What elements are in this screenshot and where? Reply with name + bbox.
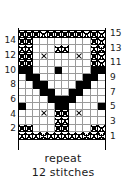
stitch-cell-blank [62,74,69,81]
stitch-cell-blank [55,74,62,81]
stitch-cell-tex [69,31,76,38]
stitch-cell-blank [48,60,55,67]
stitch-cell-blank [83,38,90,45]
stitch-cell-tex [98,125,105,132]
stitch-cell-blank [69,53,76,60]
stitch-cell-blank [40,45,47,52]
stitch-cell-tex [91,38,98,45]
stitch-cell-tex [26,125,33,132]
stitch-cell-fill [26,74,33,81]
stitch-cell-blank [76,103,83,110]
stitch-cell-blank [26,81,33,88]
stitch-cell-tex [98,132,105,139]
stitch-cell-blank [19,117,26,124]
stitch-cell-fill [48,89,55,96]
stitch-cell-fill [98,103,105,110]
stitch-cell-blank [69,81,76,88]
stitch-cell-blank [76,45,83,52]
stitch-cell-blank [98,96,105,103]
stitch-cell-blank [48,67,55,74]
stitch-cell-blank [83,103,90,110]
row-number-right: 7 [110,89,126,96]
row-number-left: 10 [0,67,16,74]
stitch-cell-tex [98,60,105,67]
row-number-left [0,133,16,140]
row-number-right: 3 [110,118,126,125]
stitch-cell-fill [33,81,40,88]
stitch-cell-fill [55,67,62,74]
stitch-cell-blank [33,103,40,110]
stitch-cell-blank [98,74,105,81]
stitch-cell-blank [76,74,83,81]
stitch-cell-tex [40,132,47,139]
stitch-cell-blank [91,81,98,88]
stitch-cell-fill [83,74,90,81]
stitch-cell-fill [19,103,26,110]
stitch-cell-blank [26,103,33,110]
stitch-cell-tex [98,31,105,38]
stitch-cell-blank [19,74,26,81]
stitch-cell-blank [83,53,90,60]
stitch-cell-blank [69,110,76,117]
stitch-cell-blank [48,110,55,117]
stitch-cell-fill [33,74,40,81]
stitch-cell-tex [26,53,33,60]
row-numbers-left: 1412108642 [0,30,18,140]
stitch-cell-tex [19,38,26,45]
stitch-cell-blank [91,110,98,117]
stitch-cell-tex [19,132,26,139]
stitch-cell-fill [69,96,76,103]
stitch-cell-fill [91,67,98,74]
stitch-cell-tex [91,45,98,52]
stitch-cell-blank [48,125,55,132]
stitch-cell-blank [83,67,90,74]
stitch-cell-blank [62,53,69,60]
stitch-cell-blank [83,45,90,52]
row-numbers-right: 15131197531 [108,30,126,140]
stitch-cell-blank [55,53,62,60]
stitch-cell-blank [91,117,98,124]
stitch-cell-tex [19,125,26,132]
stitch-cell-fill [40,81,47,88]
stitch-cell-fill [55,103,62,110]
stitch-cell-blank [83,125,90,132]
stitch-cell-fill [40,89,47,96]
stitch-cell-blank [40,38,47,45]
stitch-cell-blank [69,45,76,52]
stitch-cell-tex [76,132,83,139]
stitch-cell-tex [48,132,55,139]
stitch-grid [18,30,106,140]
stitch-cell-tex [91,53,98,60]
stitch-cell-blank [40,117,47,124]
stitch-cell-tex [91,125,98,132]
stitch-cell-blank [33,45,40,52]
stitch-cell-fill [26,67,33,74]
stitch-cell-tex [62,117,69,124]
stitch-cell-tex [26,45,33,52]
stitch-cell-blank [83,117,90,124]
stitch-cell-blank [69,125,76,132]
stitch-cell-blank [40,96,47,103]
stitch-cell-blank [83,89,90,96]
stitch-cell-tex [91,132,98,139]
stitch-cell-blank [98,89,105,96]
stitch-cell-blank [26,110,33,117]
stitch-cell-blank [76,125,83,132]
stitch-cell-tex [26,132,33,139]
stitch-cell-fill [19,67,26,74]
stitch-cell-blank [76,96,83,103]
stitch-cell-blank [48,117,55,124]
stitch-cell-tex [91,60,98,67]
stitch-cell-blank [55,60,62,67]
stitch-cell-blank [33,38,40,45]
row-number-right: 9 [110,74,126,81]
stitch-cell-fill [62,96,69,103]
stitch-cell-tex [55,31,62,38]
stitch-cell-blank [33,53,40,60]
row-number-right: 5 [110,103,126,110]
stitch-cell-blank [76,38,83,45]
stitch-cell-blank [91,96,98,103]
stitch-cell-blank [83,110,90,117]
knitting-chart-figure: 1412108642 15131197531 repeat 12 stitche… [0,0,126,183]
stitch-cell-tex [83,132,90,139]
